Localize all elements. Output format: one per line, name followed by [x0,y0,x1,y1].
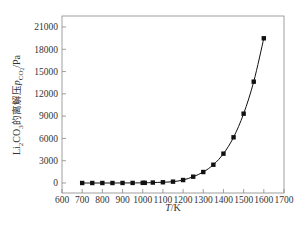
data-point-square-marker [100,181,104,185]
y-tick-label: 0 [53,178,58,188]
data-point-square-marker [171,179,175,183]
x-tick-label: 1600 [254,195,273,205]
plot-frame [62,16,284,193]
x-axis-title: T/K [165,202,181,213]
data-point-square-marker [262,36,266,40]
data-point-square-marker [130,181,134,185]
x-tick-label: 1400 [214,195,233,205]
data-point-square-marker [151,180,155,184]
y-axis-ticks: 030006000900012000150001800021000 [34,22,66,188]
plot-area-border [62,16,284,193]
x-tick-label: 700 [75,195,90,205]
x-tick-label: 900 [115,195,130,205]
y-tick-label: 18000 [34,45,58,55]
y-tick-label: 12000 [34,89,58,99]
data-point-square-marker [143,181,147,185]
x-tick-label: 1000 [133,195,152,205]
data-point-square-marker [252,79,256,83]
data-point-square-marker [181,178,185,182]
x-tick-label: 600 [55,195,70,205]
data-point-square-marker [221,151,225,155]
data-point-square-marker [120,181,124,185]
data-point-square-marker [211,163,215,167]
data-point-square-marker [110,181,114,185]
y-tick-label: 9000 [39,111,58,121]
data-point-square-marker [241,111,245,115]
data-point-square-marker [191,174,195,178]
data-series [80,36,266,185]
data-point-square-marker [231,135,235,139]
y-tick-label: 3000 [39,156,58,166]
data-point-square-marker [161,180,165,184]
data-point-square-marker [201,170,205,174]
y-tick-label: 6000 [39,134,58,144]
x-tick-label: 1500 [234,195,253,205]
data-point-square-marker [80,181,84,185]
x-tick-label: 1300 [194,195,213,205]
y-axis-title: Li2CO3的离解压pCO2/Pa [11,54,25,155]
chart: 030006000900012000150001800021000 600700… [0,0,305,229]
x-tick-label: 800 [95,195,110,205]
x-tick-label: 1700 [275,195,294,205]
series-line [82,38,264,183]
y-tick-label: 15000 [34,67,58,77]
y-tick-label: 21000 [34,22,58,32]
data-point-square-marker [90,181,94,185]
